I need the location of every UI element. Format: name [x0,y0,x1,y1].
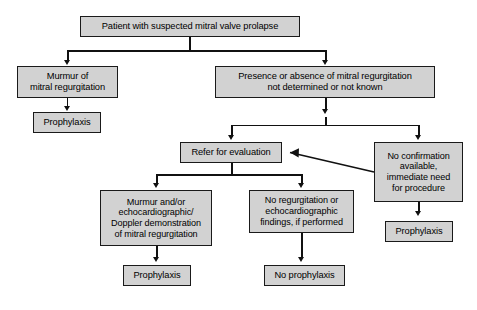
arrowhead-presence-stem [322,109,328,114]
node-root[interactable]: Patient with suspected mitral valve prol… [80,16,300,37]
arrowhead-root-to-presence [322,60,328,65]
node-murmur[interactable]: Murmur of mitral regurgitation [17,66,118,98]
arrowhead-refer-to-murmurecho [153,183,159,188]
arrowhead-presence-to-refer [228,135,234,140]
node-prophylaxis-3[interactable]: Prophylaxis [123,265,191,286]
arrowhead-refer-to-noregurg [298,183,304,188]
arrowhead-presence-to-noconfirm [415,135,421,140]
arrowhead-root-to-murmur [64,60,70,65]
connector-presence-split [231,125,419,127]
node-presence[interactable]: Presence or absence of mitral regurgitat… [215,66,435,98]
node-no-prophylaxis[interactable]: No prophylaxis [264,265,345,286]
flowchart-canvas: Patient with suspected mitral valve prol… [0,0,477,310]
arrowhead-murmurecho-to-prophylaxis3 [153,257,159,262]
node-no-regurgitation[interactable]: No regurgitation or echocardiographic fi… [249,190,354,233]
node-prophylaxis-1[interactable]: Prophylaxis [33,112,101,133]
arrowhead-murmur-to-prophylaxis1 [64,106,70,111]
connector-refer-split [156,174,302,176]
node-prophylaxis-2[interactable]: Prophylaxis [385,221,453,242]
node-murmur-echo[interactable]: Murmur and/or echocardiographic/ Doppler… [100,190,212,246]
connector-root-split [67,50,327,52]
arrowhead-noregurg-to-noprophylaxis [298,257,304,262]
connector-root-stem [189,37,191,51]
node-refer[interactable]: Refer for evaluation [180,142,282,163]
arrowhead-noconfirm-to-prophylaxis2 [415,211,421,216]
node-no-confirmation[interactable]: No confirmation available, immediate nee… [374,142,463,202]
connector-noregurg-to-noprophylaxis [301,233,303,258]
